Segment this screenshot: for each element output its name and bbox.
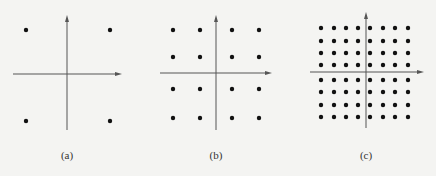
constellation-point — [257, 116, 261, 120]
constellation-point — [368, 90, 372, 94]
constellation-point — [381, 39, 385, 43]
constellation-point — [257, 55, 261, 59]
constellation-point — [406, 115, 410, 119]
constellation-point — [393, 115, 397, 119]
y-axis-arrow-icon — [364, 12, 368, 19]
constellation-point — [381, 51, 385, 55]
constellation-point — [257, 28, 261, 32]
constellation-point — [344, 90, 348, 94]
constellation-point — [406, 26, 410, 30]
constellation-point — [171, 55, 175, 59]
constellation-point — [319, 103, 323, 107]
constellation-point — [406, 103, 410, 107]
constellation-point — [393, 51, 397, 55]
panel-c — [310, 12, 424, 128]
constellation-point — [198, 116, 202, 120]
constellation-point — [230, 28, 234, 32]
constellation-point — [356, 51, 360, 55]
constellation-point — [381, 26, 385, 30]
constellation-point — [381, 78, 385, 82]
constellation-point — [406, 90, 410, 94]
constellation-point — [356, 39, 360, 43]
constellation-point — [332, 26, 336, 30]
panel-a — [13, 15, 122, 130]
constellation-point — [198, 28, 202, 32]
constellation-point — [332, 51, 336, 55]
constellation-point — [332, 63, 336, 67]
constellation-point — [24, 119, 28, 123]
constellation-point — [393, 26, 397, 30]
constellation-point — [356, 103, 360, 107]
y-axis-arrow-icon — [214, 15, 218, 22]
panel-b — [160, 15, 272, 130]
x-axis-arrow-icon — [265, 71, 272, 75]
constellation-point — [381, 63, 385, 67]
constellation-point — [368, 51, 372, 55]
constellation-point — [332, 103, 336, 107]
constellation-point — [393, 78, 397, 82]
constellation-point — [406, 39, 410, 43]
constellation-point — [393, 90, 397, 94]
constellation-point — [406, 63, 410, 67]
constellation-point — [356, 78, 360, 82]
constellation-point — [381, 115, 385, 119]
constellation-point — [171, 28, 175, 32]
constellation-point — [332, 78, 336, 82]
panel-a-label: (a) — [61, 149, 73, 161]
constellation-point — [319, 26, 323, 30]
constellation-point — [108, 28, 112, 32]
constellation-point — [368, 39, 372, 43]
constellation-point — [368, 115, 372, 119]
constellation-point — [368, 26, 372, 30]
constellation-point — [368, 78, 372, 82]
constellation-point — [356, 115, 360, 119]
panel-c-label: (c) — [360, 149, 372, 161]
constellation-point — [406, 78, 410, 82]
constellation-point — [24, 28, 28, 32]
constellation-point — [393, 103, 397, 107]
constellation-point — [344, 78, 348, 82]
constellation-point — [406, 51, 410, 55]
constellation-point — [319, 78, 323, 82]
constellation-point — [230, 116, 234, 120]
constellation-point — [356, 26, 360, 30]
constellation-point — [198, 55, 202, 59]
constellation-point — [230, 55, 234, 59]
constellation-point — [356, 63, 360, 67]
constellation-point — [381, 103, 385, 107]
constellation-point — [171, 116, 175, 120]
constellation-point — [332, 115, 336, 119]
x-axis-arrow-icon — [115, 72, 122, 76]
constellation-point — [344, 63, 348, 67]
constellation-point — [319, 51, 323, 55]
constellation-point — [108, 119, 112, 123]
panel-b-label: (b) — [210, 149, 223, 161]
constellation-point — [171, 87, 175, 91]
constellation-point — [257, 87, 261, 91]
constellation-point — [332, 39, 336, 43]
constellation-point — [368, 103, 372, 107]
x-axis-arrow-icon — [417, 70, 424, 74]
constellation-point — [344, 51, 348, 55]
constellation-point — [319, 39, 323, 43]
constellation-point — [356, 90, 360, 94]
constellation-point — [381, 90, 385, 94]
constellation-point — [198, 87, 202, 91]
constellation-point — [319, 115, 323, 119]
constellation-point — [344, 26, 348, 30]
constellation-point — [368, 63, 372, 67]
constellation-point — [230, 87, 234, 91]
constellation-point — [393, 63, 397, 67]
constellation-point — [344, 103, 348, 107]
constellation-point — [319, 90, 323, 94]
constellation-point — [319, 63, 323, 67]
constellation-point — [332, 90, 336, 94]
constellation-point — [344, 39, 348, 43]
constellation-point — [344, 115, 348, 119]
y-axis-arrow-icon — [65, 15, 69, 22]
constellation-point — [393, 39, 397, 43]
